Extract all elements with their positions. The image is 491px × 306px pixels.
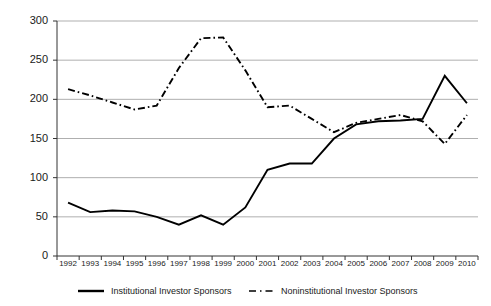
legend-item-institutional: Institutional Investor Sponsors — [78, 283, 232, 299]
chart-container: 300250200150100500 199219931994199519961… — [0, 0, 491, 306]
y-tick-label: 150 — [18, 132, 48, 144]
legend-swatch-solid-line-icon — [78, 286, 104, 296]
y-tick-label: 50 — [18, 210, 48, 222]
legend-label-noninstitutional: Noninstitutional Investor Sponsors — [281, 286, 418, 296]
x-tick-label: 2010 — [454, 259, 480, 268]
legend-swatch-dash-dot-line-icon — [248, 286, 274, 296]
y-tick-label: 300 — [18, 14, 48, 26]
y-tick-label: 0 — [18, 249, 48, 261]
y-tick-label: 200 — [18, 92, 48, 104]
y-tick-marks — [53, 21, 57, 256]
chart-legend: Institutional Investor Sponsors Noninsti… — [0, 283, 491, 301]
y-tick-label: 100 — [18, 171, 48, 183]
legend-label-institutional: Institutional Investor Sponsors — [111, 286, 232, 296]
y-tick-label: 250 — [18, 53, 48, 65]
legend-item-noninstitutional: Noninstitutional Investor Sponsors — [248, 283, 418, 299]
